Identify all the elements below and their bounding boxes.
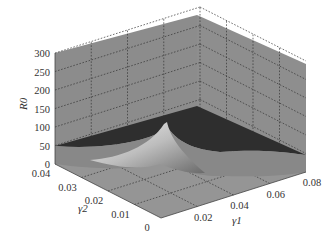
y-tick-label: 0.04 bbox=[32, 168, 51, 179]
surface-chart: 05010015020025030000.010.020.030.040.020… bbox=[0, 0, 336, 242]
y-tick-label: 0 bbox=[144, 222, 149, 233]
y-tick-label: 0.01 bbox=[111, 209, 129, 220]
z-tick-label: 250 bbox=[34, 67, 50, 78]
x-tick-label: 0.02 bbox=[194, 212, 212, 223]
y-tick-label: 0.03 bbox=[58, 182, 76, 193]
x-axis-label: γ1 bbox=[232, 214, 242, 226]
x-tick-label: 0.08 bbox=[303, 177, 321, 188]
z-tick-label: 50 bbox=[40, 141, 51, 152]
z-tick-label: 150 bbox=[34, 104, 50, 115]
z-tick-label: 200 bbox=[34, 85, 50, 96]
z-tick-label: 100 bbox=[34, 122, 50, 133]
z-tick-label: 300 bbox=[34, 48, 50, 59]
x-tick-label: 0.06 bbox=[267, 189, 285, 200]
y-axis-label: γ2 bbox=[78, 202, 88, 214]
z-axis-label: R0 bbox=[17, 97, 29, 111]
x-tick-label: 0.04 bbox=[230, 200, 249, 211]
